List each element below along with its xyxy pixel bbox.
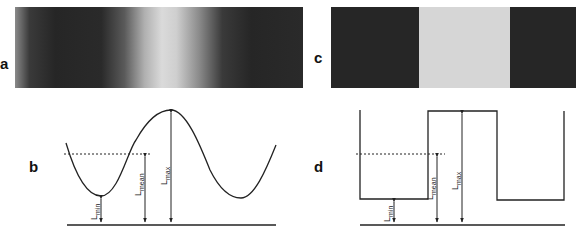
luminance-profiles: Lmin Lmean Lmax Lmin Lmean Lmax bbox=[0, 0, 576, 233]
svg-text:Lmean: Lmean bbox=[425, 177, 437, 200]
svg-text:Lmean: Lmean bbox=[133, 173, 145, 196]
svg-text:Lmin: Lmin bbox=[89, 204, 101, 220]
label-b-lmean: Lmean bbox=[133, 173, 145, 196]
label-b-lmax: Lmax bbox=[159, 166, 171, 185]
label-d-lmin: Lmin bbox=[382, 206, 394, 222]
label-d-lmax: Lmax bbox=[450, 171, 462, 190]
label-b-lmin: Lmin bbox=[89, 204, 101, 220]
svg-text:Lmax: Lmax bbox=[450, 171, 462, 190]
svg-text:Lmax: Lmax bbox=[159, 166, 171, 185]
svg-text:Lmin: Lmin bbox=[382, 206, 394, 222]
label-d-lmean: Lmean bbox=[425, 177, 437, 200]
